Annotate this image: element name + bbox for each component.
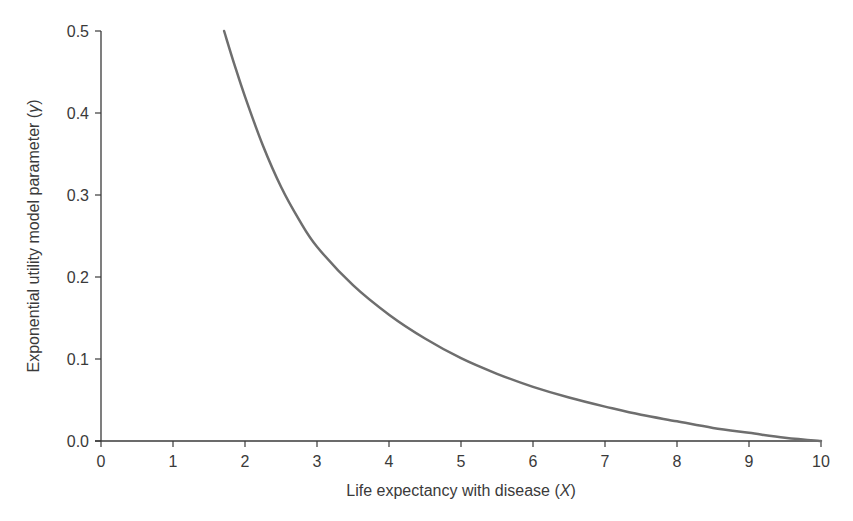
y-tick-label: 0.0 xyxy=(67,433,89,450)
x-tick-label: 5 xyxy=(457,453,466,470)
x-axis-title-close: ) xyxy=(570,482,575,499)
y-axis: 0.00.10.20.30.40.5 xyxy=(67,23,101,450)
y-axis-title: Exponential utility model parameter (γ) xyxy=(25,99,42,372)
y-tick-label: 0.3 xyxy=(67,187,89,204)
data-line-gamma xyxy=(224,31,821,441)
x-tick-label: 7 xyxy=(601,453,610,470)
x-tick-label: 8 xyxy=(673,453,682,470)
x-tick-label: 10 xyxy=(812,453,830,470)
x-axis: 012345678910 xyxy=(95,441,830,470)
x-tick-label: 1 xyxy=(169,453,178,470)
x-tick-label: 6 xyxy=(529,453,538,470)
x-tick-label: 9 xyxy=(745,453,754,470)
x-tick-label: 4 xyxy=(385,453,394,470)
x-axis-title: Life expectancy with disease (X) xyxy=(346,482,575,499)
chart: 0.00.10.20.30.40.5 012345678910 Life exp… xyxy=(0,0,853,521)
y-tick-label: 0.1 xyxy=(67,351,89,368)
y-tick-label: 0.5 xyxy=(67,23,89,40)
x-tick-label: 3 xyxy=(313,453,322,470)
y-tick-label: 0.2 xyxy=(67,269,89,286)
x-tick-label: 0 xyxy=(97,453,106,470)
y-axis-title-text: Exponential utility model parameter ( xyxy=(25,112,42,372)
x-tick-label: 2 xyxy=(241,453,250,470)
x-axis-title-text: Life expectancy with disease ( xyxy=(346,482,560,499)
y-axis-title-close: ) xyxy=(25,99,42,104)
y-tick-label: 0.4 xyxy=(67,105,89,122)
